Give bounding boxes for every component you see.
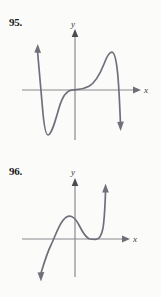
x-axis-95 [22, 87, 141, 94]
y-axis-96 [72, 178, 79, 277]
x-axis-96 [22, 236, 130, 243]
exercise-95: 95. y x [0, 0, 161, 148]
exercise-96: 96. y x [0, 149, 161, 297]
exercise-figures-page: 95. y x [0, 0, 161, 297]
graph-figure-96: y x [0, 149, 161, 297]
y-axis-label-95: y [70, 19, 75, 29]
y-axis-95 [72, 29, 79, 140]
graph-figure-95: y x [0, 0, 161, 148]
polynomial-curve-96 [38, 184, 109, 282]
x-axis-label-96: x [132, 234, 137, 244]
y-axis-label-96: y [70, 167, 75, 177]
x-axis-label-95: x [143, 85, 148, 95]
